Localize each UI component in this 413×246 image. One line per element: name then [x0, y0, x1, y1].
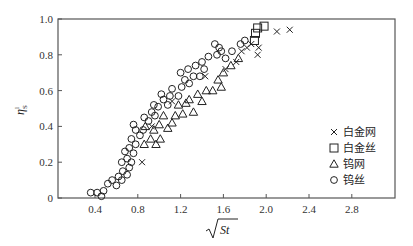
- x-axis-ticks: 0.40.81.21.62.02.42.8: [88, 194, 359, 215]
- x-marker: [256, 45, 262, 51]
- circle-marker: [130, 150, 137, 157]
- circle-marker: [237, 41, 244, 48]
- legend: 白金网白金丝钨网钨丝: [330, 125, 376, 187]
- data-points: [87, 22, 292, 199]
- circle-marker: [164, 102, 171, 109]
- circle-marker: [124, 171, 131, 178]
- x-tick-label: 2.4: [302, 203, 316, 215]
- triangle-marker: [214, 76, 222, 83]
- circle-marker: [169, 85, 176, 92]
- triangle-marker: [174, 101, 182, 108]
- circle-marker: [119, 168, 126, 175]
- legend-label: 钨丝: [343, 174, 365, 187]
- x-marker: [139, 159, 145, 165]
- circle-marker: [145, 118, 152, 125]
- circle-marker: [128, 136, 135, 143]
- triangle-marker: [156, 135, 164, 142]
- circle-marker: [94, 189, 101, 196]
- y-title-sup: l: [13, 107, 21, 109]
- legend-label: 白金网: [343, 125, 376, 139]
- x-marker: [255, 52, 261, 58]
- circle-marker: [205, 53, 212, 60]
- circle-marker: [211, 41, 218, 48]
- y-tick-label: 1.0: [39, 13, 53, 25]
- circle-marker: [190, 73, 197, 80]
- circle-marker: [185, 66, 192, 73]
- svg-text:ηSl: ηSl: [13, 105, 29, 115]
- legend-circle-icon: [331, 177, 338, 184]
- triangle-marker: [164, 124, 172, 131]
- circle-marker: [155, 103, 162, 110]
- legend-square-icon: [330, 144, 338, 152]
- legend-x-icon: [331, 129, 337, 135]
- circle-marker: [229, 48, 236, 55]
- circle-marker: [150, 102, 157, 109]
- x-marker: [274, 29, 280, 35]
- x-title-radicand: St: [220, 223, 230, 237]
- x-tick-label: 1.6: [217, 203, 231, 215]
- triangle-marker: [194, 90, 202, 97]
- circle-marker: [241, 37, 248, 44]
- circle-marker: [104, 180, 111, 187]
- circle-marker: [175, 93, 182, 100]
- triangle-marker: [141, 122, 149, 129]
- scatter-chart: 0.40.81.21.62.02.42.8 00.20.40.60.81.0 白…: [0, 0, 413, 246]
- circle-marker: [186, 80, 193, 87]
- circle-marker: [122, 148, 129, 155]
- circle-marker: [199, 59, 206, 66]
- x-marker: [287, 27, 293, 33]
- x-tick-label: 1.2: [174, 203, 188, 215]
- circle-marker: [113, 182, 120, 189]
- y-tick-label: 0: [48, 192, 54, 204]
- circle-marker: [214, 51, 221, 58]
- plot-frame: [58, 19, 395, 198]
- circle-marker: [201, 66, 208, 73]
- triangle-marker: [152, 140, 160, 147]
- legend-label: 白金丝: [343, 141, 376, 155]
- y-tick-label: 0.4: [39, 120, 53, 132]
- circle-marker: [167, 93, 174, 100]
- circle-marker: [124, 155, 131, 162]
- x-tick-label: 0.4: [88, 203, 102, 215]
- circle-marker: [141, 114, 148, 121]
- circle-marker: [178, 84, 185, 91]
- triangle-marker: [217, 83, 225, 90]
- x-tick-label: 2.0: [259, 203, 273, 215]
- circle-marker: [222, 55, 229, 62]
- y-tick-label: 0.2: [39, 156, 53, 168]
- triangle-marker: [155, 120, 163, 127]
- legend-label: 钨网: [343, 158, 365, 171]
- triangle-marker: [179, 110, 187, 117]
- y-tick-label: 0.8: [39, 49, 53, 61]
- circle-marker: [192, 62, 199, 69]
- triangle-marker: [189, 108, 197, 115]
- circle-marker: [196, 73, 203, 80]
- y-tick-label: 0.6: [39, 85, 53, 97]
- x-marker: [239, 48, 245, 54]
- triangle-marker: [159, 111, 167, 118]
- triangle-marker: [171, 111, 179, 118]
- legend-triangle-icon: [330, 160, 338, 167]
- x-axis-title: St: [206, 219, 238, 238]
- triangle-marker: [168, 119, 176, 126]
- x-tick-label: 2.8: [345, 203, 359, 215]
- circle-marker: [177, 69, 184, 76]
- circle-marker: [181, 76, 188, 83]
- y-axis-title: ηSl: [13, 105, 29, 115]
- x-tick-label: 0.8: [131, 203, 145, 215]
- triangle-marker: [198, 97, 206, 104]
- triangle-marker: [146, 135, 154, 142]
- circle-marker: [87, 189, 94, 196]
- y-title-sub: S: [21, 105, 29, 109]
